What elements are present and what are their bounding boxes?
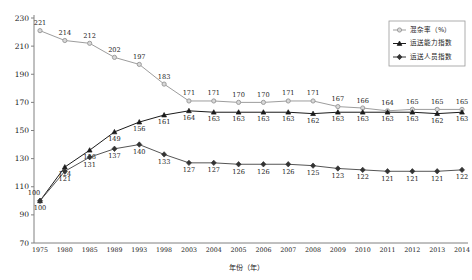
- data-point-label: 125: [307, 169, 320, 177]
- data-point-marker: [112, 55, 116, 59]
- data-point-marker: [212, 99, 216, 103]
- data-point-label: 167: [332, 95, 345, 103]
- chart-canvas: 7090110130150170190210230197519801985198…: [0, 0, 472, 280]
- data-point-marker: [410, 169, 415, 174]
- data-point-label: 214: [59, 29, 72, 37]
- y-axis-tick-label: 230: [15, 14, 30, 23]
- data-point-marker: [286, 162, 291, 167]
- x-axis-tick-label: 2008: [305, 246, 321, 253]
- x-axis-tick-label: 1980: [57, 246, 73, 253]
- x-axis-tick-label: 2004: [206, 246, 222, 253]
- data-point-label: 170: [232, 91, 245, 99]
- data-point-label: 121: [431, 175, 444, 183]
- data-point-label: 183: [158, 73, 171, 81]
- data-point-marker: [435, 169, 440, 174]
- data-point-label: 164: [183, 114, 196, 122]
- y-axis-tick-label: 70: [19, 239, 29, 248]
- data-point-label: 121: [381, 175, 394, 183]
- series-line: [40, 145, 462, 201]
- y-axis-tick-label: 210: [15, 42, 30, 51]
- data-point-label: 163: [381, 115, 394, 123]
- data-point-label: 126: [282, 168, 295, 176]
- data-point-marker: [236, 162, 241, 167]
- x-axis-tick-label: 2010: [355, 246, 371, 253]
- data-point-marker: [385, 169, 390, 174]
- data-point-label: 163: [232, 115, 245, 123]
- data-point-label: 121: [406, 175, 419, 183]
- x-axis-tick-label: 2011: [380, 246, 396, 253]
- data-point-label: 165: [406, 98, 419, 106]
- x-axis-tick-label: 1989: [106, 246, 122, 253]
- data-point-label: 149: [108, 135, 121, 143]
- data-point-label: 162: [307, 117, 320, 125]
- data-point-label: 163: [332, 115, 345, 123]
- x-axis-tick-label: 2007: [280, 246, 296, 253]
- data-point-label: 162: [431, 117, 444, 125]
- data-point-marker: [460, 167, 465, 172]
- data-point-label: 140: [133, 148, 146, 156]
- data-point-label: 163: [207, 115, 220, 123]
- data-point-label: 126: [232, 168, 245, 176]
- x-axis-tick-label: 2006: [255, 246, 271, 253]
- y-axis-tick-label: 90: [19, 210, 29, 219]
- data-point-marker: [88, 41, 92, 45]
- data-point-marker: [137, 62, 141, 66]
- data-point-marker: [112, 146, 117, 151]
- legend-item-label-1: 混杂率（%）: [410, 25, 451, 34]
- data-point-label: 171: [282, 89, 295, 97]
- data-point-marker: [360, 167, 365, 172]
- data-point-marker: [335, 166, 340, 171]
- data-point-label: 163: [257, 115, 270, 123]
- data-point-marker: [137, 142, 142, 147]
- x-axis-tick-label: 2013: [429, 246, 445, 253]
- data-point-marker: [336, 104, 340, 108]
- data-point-label: 171: [207, 89, 220, 97]
- data-point-label: 212: [83, 32, 96, 40]
- data-point-label: 123: [332, 172, 345, 180]
- x-axis-tick-label: 1975: [32, 246, 48, 253]
- legend-item-label-2: 运送能力指数: [410, 38, 452, 47]
- x-axis-title: 年份（年）: [229, 263, 264, 272]
- data-point-label: 163: [356, 115, 369, 123]
- data-point-label: 163: [282, 115, 295, 123]
- data-point-label: 171: [307, 89, 320, 97]
- data-point-label: 164: [381, 99, 394, 107]
- x-axis-tick-label: 1985: [82, 246, 98, 253]
- x-axis-tick-label: 2012: [404, 246, 420, 253]
- data-point-label: 127: [207, 166, 220, 174]
- data-point-marker: [397, 28, 401, 32]
- data-point-label: 161: [158, 118, 171, 126]
- data-point-marker: [162, 82, 166, 86]
- data-point-label: 165: [456, 98, 469, 106]
- data-point-label: 163: [456, 115, 469, 123]
- legend-item-label-3: 运送人员指数: [410, 52, 452, 61]
- series-3: 1001211311371401331271271261261261251231…: [34, 142, 469, 212]
- data-point-marker: [236, 100, 240, 104]
- data-point-label: 126: [257, 168, 270, 176]
- data-point-label: 127: [183, 166, 196, 174]
- data-point-label: 170: [257, 91, 270, 99]
- legend: 混杂率（%）运送能力指数运送人员指数: [389, 21, 465, 66]
- data-point-label: 171: [183, 89, 196, 97]
- data-point-marker: [261, 162, 266, 167]
- data-point-marker: [186, 160, 191, 165]
- x-axis-tick-label: 1993: [131, 246, 147, 253]
- data-point-label: 166: [356, 97, 369, 105]
- data-point-marker: [311, 163, 316, 168]
- x-axis-tick-label: 2005: [231, 246, 247, 253]
- data-point-label: 156: [133, 125, 146, 133]
- y-axis-tick-label: 170: [15, 98, 30, 107]
- line-chart: 7090110130150170190210230197519801985198…: [0, 0, 472, 280]
- data-point-marker: [38, 29, 42, 33]
- data-point-label: 137: [108, 152, 121, 160]
- data-point-label: 100: [34, 204, 47, 212]
- data-point-label: 121: [59, 175, 72, 183]
- x-axis-tick-label: 2009: [330, 246, 346, 253]
- data-point-marker: [187, 99, 191, 103]
- data-point-marker: [261, 100, 265, 104]
- y-axis-tick-label: 150: [15, 126, 30, 135]
- data-point-label: 202: [108, 46, 121, 54]
- y-axis-tick-label: 130: [15, 154, 30, 163]
- data-point-marker: [286, 99, 290, 103]
- data-point-label: 122: [456, 173, 469, 181]
